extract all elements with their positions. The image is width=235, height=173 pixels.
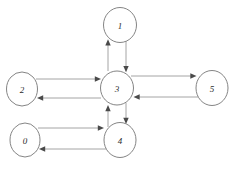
node-1[interactable]: 1 [104, 8, 137, 43]
edge-2-to-3 [36, 76, 101, 81]
arrow-head-into-5 [190, 73, 196, 78]
arrow-head-into-3-left [95, 76, 101, 81]
node-2[interactable]: 2 [7, 72, 38, 106]
arrow-head-into-3-right [134, 94, 140, 99]
node-2-label: 2 [20, 85, 25, 95]
edge-3-to-5 [131, 73, 197, 78]
node-5-label: 5 [210, 84, 215, 94]
nodes-layer: 1 2 3 5 0 4 [7, 8, 229, 158]
edge-4-to-0 [39, 146, 106, 151]
graph-svg: 1 2 3 5 0 4 [0, 0, 235, 173]
edge-3-to-4 [123, 103, 128, 124]
node-4[interactable]: 4 [104, 123, 136, 158]
node-0[interactable]: 0 [10, 123, 40, 157]
edge-1-to-3 [123, 41, 128, 72]
edge-4-to-3 [105, 105, 110, 127]
edge-5-to-3 [134, 94, 199, 99]
edge-3-to-2 [37, 95, 101, 100]
node-0-label: 0 [23, 136, 28, 146]
node-5[interactable]: 5 [196, 71, 228, 106]
node-3[interactable]: 3 [101, 71, 134, 105]
edge-3-to-1 [105, 39, 110, 71]
arrow-head-into-0 [39, 146, 45, 151]
graph-canvas: 1 2 3 5 0 4 [0, 0, 235, 173]
arrow-head-into-1 [105, 39, 110, 45]
arrow-head-into-4-left [98, 125, 104, 130]
node-3-label: 3 [114, 84, 120, 94]
arrow-head-into-3-top [123, 66, 128, 72]
arrow-head-into-3-bottom [105, 105, 110, 111]
node-4-label: 4 [118, 136, 123, 146]
arrow-head-into-2 [37, 95, 43, 100]
node-1-label: 1 [118, 21, 123, 31]
edge-0-to-4 [38, 125, 104, 130]
